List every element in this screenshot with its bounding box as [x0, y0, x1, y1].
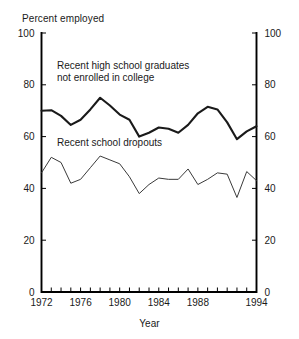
- series-annotation-1: Recent high school graduates: [57, 60, 189, 71]
- y-axis-right-tick-label: 100: [265, 28, 282, 39]
- x-axis-tick-label: 1976: [69, 297, 92, 308]
- series-line-2: [42, 156, 257, 197]
- y-axis-right-tick-label: 80: [265, 79, 277, 90]
- series-annotation-1: not enrolled in college: [57, 72, 155, 83]
- y-axis-left-tick-label: 0: [29, 287, 35, 298]
- y-axis-left-tick-label: 20: [23, 235, 35, 246]
- y-axis-left-tick-label: 40: [23, 183, 35, 194]
- y-axis-left-tick-label: 60: [23, 131, 35, 142]
- chart-plot-area: 020406080100 020406080100 19721976198019…: [0, 0, 299, 339]
- x-axis-label: Year: [0, 318, 299, 329]
- y-axis-right-tick-label: 60: [265, 131, 277, 142]
- y-axis-left-tick-label: 100: [18, 28, 35, 39]
- y-axis-right-tick-label: 0: [265, 287, 271, 298]
- x-axis-ticks: 197219761980198419881994: [30, 288, 268, 309]
- y-axis-left-tick-label: 80: [23, 79, 35, 90]
- x-axis-tick-label: 1984: [148, 297, 171, 308]
- y-axis-right-tick-label: 40: [265, 183, 277, 194]
- x-axis-tick-label: 1980: [109, 297, 132, 308]
- x-axis-tick-label: 1988: [187, 297, 210, 308]
- chart-figure: Percent employed 020406080100 0204060801…: [0, 0, 299, 339]
- x-axis-tick-label: 1972: [30, 297, 53, 308]
- series-annotations: Recent high school graduatesnot enrolled…: [57, 60, 189, 148]
- series-annotation-2: Recent school dropouts: [57, 137, 162, 148]
- x-axis-tick-label: 1994: [245, 297, 268, 308]
- y-axis-right-tick-label: 20: [265, 235, 277, 246]
- series-line-1: [42, 98, 257, 139]
